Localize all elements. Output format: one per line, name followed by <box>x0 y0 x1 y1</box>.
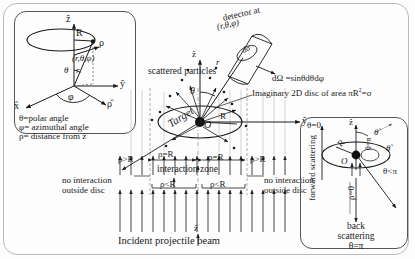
imaginary-disc-text: Imaginary 2D disc of area πR <box>252 88 359 98</box>
rho-marker-left-inner: ρ=R <box>158 150 174 159</box>
rho-marker-right-outer: ρ>R <box>250 155 266 164</box>
incident-beam-caption: Incident projectile beam <box>118 236 220 247</box>
origin-label: O <box>204 120 211 130</box>
forward-line2: scattering <box>307 135 317 170</box>
rho-marker-right-inner: ρ=R <box>208 153 224 162</box>
bottom-axis-z-label: ẑ <box>194 224 198 233</box>
left-axis-z-label: ẑ <box>66 14 70 24</box>
legend-rho-distance: ρ= distance from ẑ <box>19 132 86 141</box>
left-rho-hat-label: ρ̂ <box>107 99 112 109</box>
rho-less-right-label: ρ<R <box>210 180 226 189</box>
right-axis-z-label: ẑ <box>349 118 353 127</box>
theta-prime-inner-label: θˋ <box>386 144 393 153</box>
rho-zero-label: ρ=0 <box>347 186 356 200</box>
rho-marker-left-outer: ρ>R <box>118 155 134 164</box>
left-theta-label: θ <box>64 66 68 75</box>
figure-root: ẑ R (r,θ,φ) ρ θ r ŷ x̂ φ ρ̂ θ=polar angl… <box>0 0 415 259</box>
left-point-coords-label: (r,θ,φ) <box>72 54 94 63</box>
left-radius-label: R <box>76 28 83 38</box>
theta-equals-pi-label: θ=π <box>365 138 373 150</box>
scattered-particles-label: scattered particles <box>148 67 216 77</box>
center-target-radius-label: R <box>220 112 226 121</box>
back-scattering-theta: θ=π <box>328 242 384 252</box>
forward-line1: forward <box>307 172 317 201</box>
left-phi-label: φ <box>68 92 74 102</box>
imaginary-disc-tail: =σ <box>362 88 372 98</box>
left-axis-y-label: ŷ <box>120 79 125 89</box>
theta-zero-label: θ=0 <box>307 121 321 130</box>
theta-less-pi-label: θ<π <box>383 167 397 176</box>
left-rho-label: ρ <box>99 38 104 48</box>
right-origin-label: O <box>341 157 348 166</box>
forward-scattering-text: forward scattering <box>308 135 317 201</box>
rho-less-left-label: ρ<R <box>160 180 176 189</box>
center-theta-label: θ <box>190 86 195 96</box>
solid-angle-formula-label: dΩ =sinθdθdφ <box>272 74 324 83</box>
left-axis-x-label: x̂ <box>14 101 19 111</box>
center-axis-z-label: ẑ <box>192 50 196 59</box>
no-interaction-left-line1: no interaction <box>62 176 112 185</box>
theta-prime-outer-label: θˋ <box>374 128 381 137</box>
left-r-label: r <box>76 66 80 75</box>
imaginary-disc-label: Imaginary 2D disc of area πR2=σ <box>252 88 372 98</box>
center-r-label: r <box>216 58 220 67</box>
no-interaction-left-line2: outside disc <box>62 186 105 195</box>
interaction-zone-label: interaction zone <box>157 165 218 175</box>
forward-scattering-label: forward scattering <box>305 135 319 203</box>
